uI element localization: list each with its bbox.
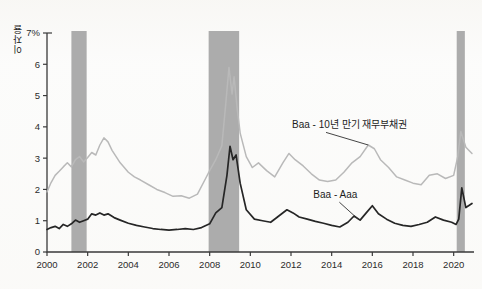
x-tick-label: 2006 (158, 259, 179, 270)
x-tick-label: 2000 (36, 259, 57, 270)
y-tick-label: 3 (35, 153, 40, 164)
x-tick-label: 2012 (280, 259, 301, 270)
annotation-label-0: Baa - 10년 만기 재무부채권 (292, 119, 407, 130)
annotation-leader-line-0 (326, 132, 368, 145)
x-tick-label: 2004 (118, 259, 139, 270)
annotation-leader-line-1 (339, 202, 359, 220)
annotation-label-1: Baa - Aaa (313, 189, 357, 200)
y-tick-label: 7% (26, 27, 40, 38)
y-tick-label: 2 (35, 184, 40, 195)
y-tick-label: 5 (35, 90, 40, 101)
x-tick-label: 2008 (199, 259, 220, 270)
series-line-baa-treasury (47, 67, 472, 198)
y-tick-group: 01234567% (26, 27, 47, 257)
x-tick-label: 2016 (362, 259, 383, 270)
x-tick-label: 2010 (240, 259, 261, 270)
axis-lines (47, 33, 474, 252)
y-tick-label: 4 (35, 121, 40, 132)
x-tick-label: 2014 (321, 259, 342, 270)
x-tick-label-group: 2000200220042006200820102012201420162018… (36, 259, 464, 270)
x-tick-label: 2018 (402, 259, 423, 270)
y-tick-label: 0 (35, 246, 40, 257)
y-tick-label: 6 (35, 59, 40, 70)
recession-2001-band (71, 31, 86, 252)
recession-shading-group (71, 31, 464, 252)
axis-lines-group (47, 33, 474, 252)
x-tick-label: 2002 (77, 259, 98, 270)
chart-page: 이자율 01234567% Baa - 10년 만기 재무부채권Baa - Aa… (0, 0, 482, 289)
data-series-group (47, 67, 472, 230)
interest-rate-spread-line-chart: 01234567% Baa - 10년 만기 재무부채권Baa - Aaa 20… (0, 0, 482, 289)
series-line-baa-aaa (47, 146, 472, 230)
x-tick-label: 2020 (443, 259, 464, 270)
y-tick-label: 1 (35, 215, 40, 226)
